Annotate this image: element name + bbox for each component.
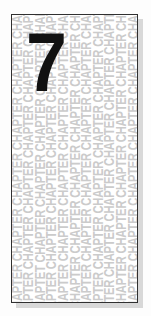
chapter-box: CHAPTER CHAPTER CHAPTER CHAPTER CHAPTER …	[11, 14, 138, 303]
pattern-line: HAPTER CHAPTER CHAPTER CHAPTER CHAPTER C…	[125, 15, 137, 302]
chapter-divider-page: CHAPTER CHAPTER CHAPTER CHAPTER CHAPTER …	[0, 0, 151, 316]
chapter-number: 7	[26, 21, 65, 104]
